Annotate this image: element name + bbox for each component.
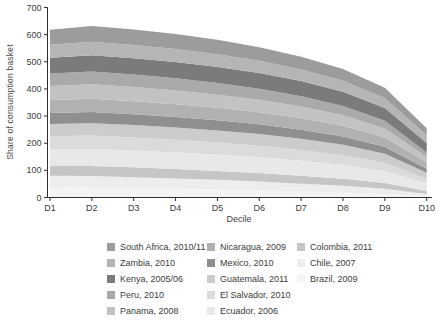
legend-label: Zambia, 2010 — [120, 258, 175, 268]
legend-label: Brazil, 2009 — [310, 274, 358, 284]
legend-swatch-colombia — [297, 243, 305, 251]
y-tick-label: 600 — [26, 30, 41, 40]
figure: 0100200300400500600700D1D2D3D4D5D6D7D8D9… — [0, 0, 441, 322]
y-tick-label: 0 — [36, 193, 41, 203]
x-tick-label-d2: D2 — [86, 203, 98, 213]
legend-swatch-brazil — [297, 275, 305, 283]
legend-item-mexico: Mexico, 2010 — [207, 258, 297, 268]
legend-swatch-chile — [297, 259, 305, 267]
legend-label: Kenya, 2005/06 — [120, 274, 183, 284]
y-tick-label: 100 — [26, 165, 41, 175]
legend-swatch-kenya — [107, 275, 115, 283]
legend-item-colombia: Colombia, 2011 — [297, 242, 387, 252]
legend-swatch-guatemala — [207, 275, 215, 283]
y-tick-label: 200 — [26, 138, 41, 148]
y-axis-title: Share of consumption basket — [5, 44, 15, 160]
x-tick-label-d7: D7 — [295, 203, 307, 213]
legend-item-south-africa: South Africa, 2010/11 — [107, 242, 207, 252]
y-tick-label: 700 — [26, 3, 41, 13]
legend-item-guatemala: Guatemala, 2011 — [207, 274, 297, 284]
legend-swatch-south-africa — [107, 243, 115, 251]
legend-swatch-mexico — [207, 259, 215, 267]
legend-swatch-nicaragua — [207, 243, 215, 251]
x-tick-label-d4: D4 — [170, 203, 182, 213]
legend-item-chile: Chile, 2007 — [297, 258, 387, 268]
x-tick-label-d8: D8 — [337, 203, 349, 213]
legend-label: Mexico, 2010 — [220, 258, 274, 268]
y-tick-label: 500 — [26, 57, 41, 67]
x-tick-label-d10: D10 — [418, 203, 435, 213]
x-tick-label-d1: D1 — [44, 203, 56, 213]
legend-label: Ecuador, 2006 — [220, 306, 278, 316]
x-axis-title: Decile — [48, 214, 430, 224]
legend-label: Colombia, 2011 — [310, 242, 372, 252]
x-tick-label-d9: D9 — [379, 203, 391, 213]
legend-label: Panama, 2008 — [120, 306, 179, 316]
legend-swatch-peru — [107, 291, 115, 299]
legend-label: Nicaragua, 2009 — [220, 242, 286, 252]
y-tick-label: 400 — [26, 84, 41, 94]
legend-label: Guatemala, 2011 — [220, 274, 288, 284]
x-tick-label-d3: D3 — [128, 203, 140, 213]
legend-swatch-ecuador — [207, 307, 215, 315]
legend-item-peru: Peru, 2010 — [107, 290, 207, 300]
legend-item-kenya: Kenya, 2005/06 — [107, 274, 207, 284]
legend-label: Peru, 2010 — [120, 290, 164, 300]
legend-item-zambia: Zambia, 2010 — [107, 258, 207, 268]
legend-label: Chile, 2007 — [310, 258, 356, 268]
legend-item-brazil: Brazil, 2009 — [297, 274, 387, 284]
legend-label: South Africa, 2010/11 — [120, 242, 205, 252]
legend-item-panama: Panama, 2008 — [107, 306, 207, 316]
legend-item-nicaragua: Nicaragua, 2009 — [207, 242, 297, 252]
legend-swatch-zambia — [107, 259, 115, 267]
x-tick-label-d6: D6 — [254, 203, 266, 213]
legend-item-el-salvador: El Salvador, 2010 — [207, 290, 297, 300]
legend-swatch-panama — [107, 307, 115, 315]
legend-item-ecuador: Ecuador, 2006 — [207, 306, 297, 316]
legend-label: El Salvador, 2010 — [220, 290, 291, 300]
stacked-area-chart: 0100200300400500600700D1D2D3D4D5D6D7D8D9… — [0, 0, 441, 236]
legend: South Africa, 2010/11Zambia, 2010Kenya, … — [107, 239, 387, 319]
x-tick-label-d5: D5 — [212, 203, 224, 213]
y-tick-label: 300 — [26, 111, 41, 121]
legend-swatch-el-salvador — [207, 291, 215, 299]
